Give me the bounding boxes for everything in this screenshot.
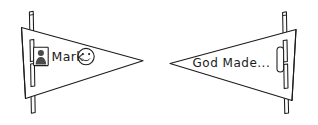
right-pennant: God Made...	[170, 12, 296, 114]
illustration-canvas: Mark	[0, 0, 318, 125]
left-pennant: Mark	[22, 11, 144, 113]
pennants-drawing: Mark	[0, 0, 318, 125]
person-badge-icon	[34, 47, 49, 65]
right-pennant-label: God Made...	[193, 56, 271, 70]
vertical-rounded-slot-icon	[277, 47, 284, 72]
